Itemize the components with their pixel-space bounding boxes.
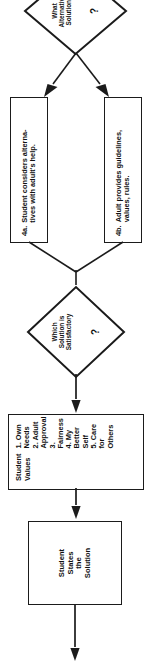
student-values-heading: Student Values (15, 453, 32, 481)
step-4b-number: 4b. (115, 225, 123, 236)
decision-label-group: What Alternative Solutions ? (33, 0, 118, 28)
decision-question-mark: ? (89, 0, 100, 28)
decision-label-text: What Alternative Solutions (51, 0, 72, 28)
student-values-item: 2. Adult Approval (32, 416, 48, 448)
student-values-item: 3. Fairness (49, 416, 65, 448)
merge-steps-connector (10, 240, 142, 288)
satisfactory-to-values-arrow (69, 373, 83, 413)
step-4b-box: 4b. Adult provides guidelines, values, r… (104, 97, 142, 243)
decision-which-solution-satisfactory: Which Solution is Satisfactory ? (26, 285, 126, 379)
step-4a-text: Student considers alterna- tives with ad… (21, 129, 38, 222)
values-to-statement-arrow (69, 487, 83, 519)
exit-flow-arrow (68, 603, 82, 661)
student-values-list: 1. Own Needs 2. Adult Approval 3. Fairne… (15, 416, 115, 448)
step-4b-text: Adult provides guidelines, values, rules… (115, 130, 132, 222)
student-values-item: 5. Care for Others (90, 416, 114, 448)
branch-to-steps-connector (23, 51, 129, 99)
decision-question-mark: ? (90, 314, 101, 351)
student-states-solution-text: Student States the Solution (58, 525, 92, 601)
student-values-item: 1. Own Needs (15, 416, 31, 448)
student-states-solution-box: Student States the Solution (28, 521, 122, 605)
decision-label-group: Which Solution is Satisfactory ? (34, 314, 119, 351)
decision-what-alternative-solutions: What Alternative Solutions ? (23, 0, 128, 56)
flowchart-canvas: What Alternative Solutions ? 4a. Student… (0, 0, 152, 531)
student-values-box: Student Values 1. Own Needs 2. Adult App… (8, 414, 144, 490)
student-values-item: 4. My Better Self (65, 416, 89, 448)
step-4a-box: 4a. Student considers alterna- tives wit… (10, 97, 48, 243)
step-4a-number: 4a. (21, 226, 29, 236)
decision-label-text: Which Solution is Satisfactory (51, 314, 72, 351)
